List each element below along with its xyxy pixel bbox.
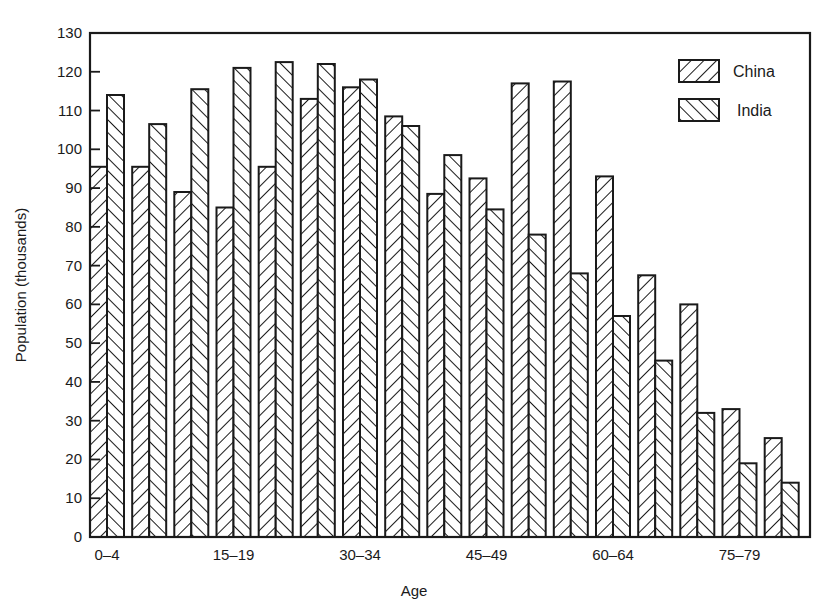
bar-china — [470, 178, 487, 537]
legend-item-india: India — [679, 99, 772, 121]
bar-india — [276, 62, 293, 537]
bar-china — [765, 438, 782, 537]
x-axis-title: Age — [401, 582, 428, 599]
legend-label-china: China — [733, 63, 775, 80]
bar-india — [444, 155, 461, 537]
y-tick-label: 110 — [58, 102, 82, 119]
china-swatch-icon — [679, 60, 719, 82]
bar-china — [427, 194, 444, 537]
bar-china — [554, 82, 571, 538]
bar-india — [234, 68, 251, 537]
x-tick-label: 60–64 — [592, 546, 634, 563]
y-tick-label: 60 — [65, 295, 82, 312]
y-axis-title: Population (thousands) — [12, 208, 29, 362]
bar-china — [723, 409, 740, 537]
x-tick-label: 30–34 — [339, 546, 381, 563]
y-tick-label: 10 — [65, 489, 82, 506]
bar-china — [174, 192, 191, 537]
y-tick-label: 100 — [57, 140, 82, 157]
india-swatch-icon — [679, 99, 719, 121]
bar-china — [301, 99, 318, 537]
legend-item-china: China — [679, 60, 775, 82]
bar-india — [740, 463, 757, 537]
x-tick-label: 45–49 — [466, 546, 508, 563]
bar-india — [529, 235, 546, 537]
x-axis: 0–415–1930–3445–4960–6475–79 — [94, 546, 760, 563]
x-tick-label: 0–4 — [94, 546, 119, 563]
y-tick-label: 50 — [65, 334, 82, 351]
y-tick-label: 130 — [57, 24, 82, 41]
bar-india — [318, 64, 335, 537]
bar-china — [512, 83, 529, 537]
y-tick-label: 20 — [65, 450, 82, 467]
bar-china — [132, 167, 149, 537]
bar-india — [402, 126, 419, 537]
bar-china — [596, 176, 613, 537]
x-tick-label: 75–79 — [719, 546, 761, 563]
bar-china — [217, 208, 234, 538]
bar-india — [191, 89, 208, 537]
legend-label-india: India — [737, 102, 772, 119]
bar-india — [571, 273, 588, 537]
bar-india — [697, 413, 714, 537]
x-tick-label: 15–19 — [213, 546, 255, 563]
y-tick-label: 30 — [65, 412, 82, 429]
legend: China India — [679, 60, 775, 121]
bar-china — [343, 87, 360, 537]
y-tick-label: 90 — [65, 179, 82, 196]
bar-china — [259, 167, 276, 537]
bar-chart: 0102030405060708090100110120130 0–415–19… — [0, 0, 826, 614]
bar-india — [107, 95, 124, 537]
bar-india — [360, 80, 377, 538]
bar-india — [782, 483, 799, 537]
y-tick-label: 0 — [74, 528, 82, 545]
bar-india — [655, 361, 672, 537]
y-tick-label: 70 — [65, 257, 82, 274]
y-tick-label: 120 — [57, 63, 82, 80]
bars-group — [90, 62, 799, 537]
y-tick-label: 40 — [65, 373, 82, 390]
y-tick-label: 80 — [65, 218, 82, 235]
bar-china — [638, 275, 655, 537]
bar-india — [613, 316, 630, 537]
bar-india — [149, 124, 166, 537]
bar-india — [487, 209, 504, 537]
bar-china — [385, 116, 402, 537]
bar-china — [680, 304, 697, 537]
bar-china — [90, 167, 107, 537]
